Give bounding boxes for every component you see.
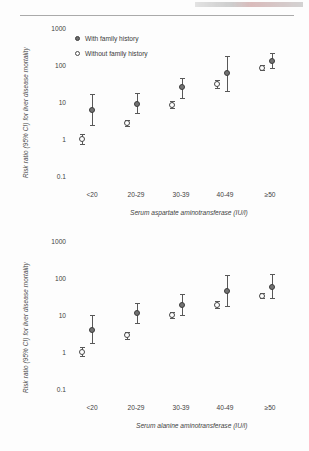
data-point-without-family-history — [259, 65, 265, 71]
error-bar-cap — [125, 126, 130, 127]
data-point-with-family-history — [224, 70, 230, 76]
error-bar-cap — [80, 144, 85, 145]
plot-area-alt — [0, 218, 309, 418]
error-bar-cap — [90, 315, 95, 316]
data-point-without-family-history — [214, 302, 220, 308]
error-bar-cap — [135, 113, 140, 114]
error-bar-cap — [270, 68, 275, 69]
data-point-with-family-history — [269, 58, 275, 64]
error-bar-cap — [90, 343, 95, 344]
chart-panel-alt: Risk ratio (95% CI) for liver disease mo… — [0, 218, 309, 451]
error-bar-cap — [225, 275, 230, 276]
data-point-with-family-history — [134, 101, 140, 107]
error-bar-cap — [270, 298, 275, 299]
error-bar-cap — [225, 91, 230, 92]
plot-area-ast — [0, 0, 309, 200]
x-tick-ast-1: 20-29 — [116, 191, 156, 198]
data-point-with-family-history — [89, 107, 95, 113]
error-bar-cap — [180, 98, 185, 99]
error-bar-cap — [270, 53, 275, 54]
error-bar-cap — [180, 315, 185, 316]
error-bar-cap — [80, 134, 85, 135]
error-bar-cap — [125, 339, 130, 340]
x-tick-ast-0: <20 — [72, 191, 112, 198]
error-bar-cap — [170, 108, 175, 109]
error-bar-cap — [180, 294, 185, 295]
x-tick-ast-2: 30-39 — [161, 191, 201, 198]
x-tick-alt-0: <20 — [72, 404, 112, 411]
error-bar-cap — [170, 318, 175, 319]
error-bar-cap — [215, 308, 220, 309]
data-point-with-family-history — [89, 327, 95, 333]
error-bar-cap — [215, 88, 220, 89]
data-point-without-family-history — [79, 136, 85, 142]
x-tick-ast-4: ≥50 — [250, 191, 290, 198]
data-point-with-family-history — [179, 302, 185, 308]
error-bar-cap — [135, 303, 140, 304]
data-point-without-family-history — [169, 102, 175, 108]
error-bar-cap — [270, 274, 275, 275]
figure-page: Risk ratio (95% CI) for liver disease mo… — [0, 0, 309, 451]
error-bar-cap — [135, 93, 140, 94]
error-bar-cap — [90, 125, 95, 126]
chart-panel-ast: Risk ratio (95% CI) for liver disease mo… — [0, 0, 309, 226]
x-tick-alt-4: ≥50 — [250, 404, 290, 411]
data-point-without-family-history — [124, 120, 130, 126]
x-tick-alt-3: 40-49 — [205, 404, 245, 411]
data-point-with-family-history — [224, 288, 230, 294]
data-point-without-family-history — [79, 349, 85, 355]
error-bar-cap — [225, 56, 230, 57]
data-point-with-family-history — [179, 84, 185, 90]
error-bar-cap — [80, 356, 85, 357]
error-bar-cap — [135, 323, 140, 324]
x-tick-alt-2: 30-39 — [161, 404, 201, 411]
x-axis-caption-ast: Serum aspartate aminotransferase (IU/l) — [130, 209, 248, 216]
data-point-without-family-history — [259, 293, 265, 299]
data-point-without-family-history — [169, 312, 175, 318]
data-point-with-family-history — [134, 310, 140, 316]
data-point-without-family-history — [124, 332, 130, 338]
error-bar-cap — [225, 306, 230, 307]
data-point-with-family-history — [269, 284, 275, 290]
data-point-without-family-history — [214, 81, 220, 87]
x-tick-ast-3: 40-49 — [205, 191, 245, 198]
x-tick-alt-1: 20-29 — [116, 404, 156, 411]
error-bar-cap — [90, 94, 95, 95]
x-axis-caption-alt: Serum alanine aminotransferase (IU/l) — [136, 422, 247, 429]
error-bar-cap — [180, 78, 185, 79]
